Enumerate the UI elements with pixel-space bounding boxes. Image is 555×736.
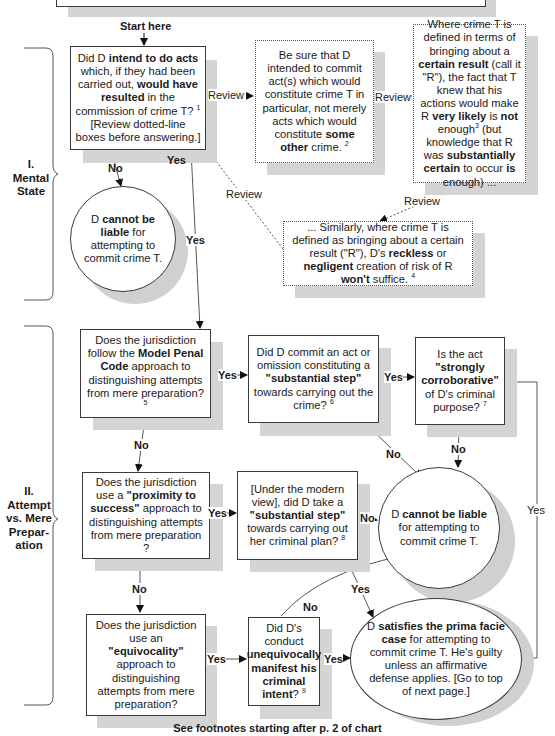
node-text: Does the jurisdiction use an "equivocali…: [91, 619, 201, 711]
node-text: Does the jurisdiction follow the Model P…: [85, 334, 206, 413]
node-equivocality: Does the jurisdiction use an "equivocali…: [86, 614, 206, 716]
section-label-line: ation: [4, 539, 54, 553]
edge-label-no: No: [303, 601, 318, 613]
node-cannot-be-liable-1: D cannot be liable for attempting to com…: [70, 186, 176, 292]
section-label-line: Mental: [10, 172, 52, 186]
node-text: Where crime T is defined in terms of bri…: [418, 18, 521, 188]
edge-label-no: No: [360, 512, 375, 524]
edge-label-yes: Yes: [208, 507, 227, 519]
node-text: Is the act "strongly corroborative" of D…: [420, 348, 500, 413]
edge-label-no: No: [386, 448, 401, 460]
node-intend-to-do-acts: Did D intend to do acts which, if they h…: [70, 46, 206, 150]
edge-label-no: No: [132, 583, 147, 595]
node-cannot-be-liable-2: D cannot be liable for attempting to com…: [378, 467, 500, 589]
edge-label-no: No: [108, 162, 123, 174]
node-text: D cannot be liable for attempting to com…: [385, 508, 493, 547]
edge-label-yes: Yes: [324, 653, 343, 665]
node-certain-result: Where crime T is defined in terms of bri…: [413, 24, 526, 183]
edge-label-no: No: [451, 443, 466, 455]
section-label-mental-state: I. Mental State: [10, 158, 52, 199]
node-text: [Under the modern view], did D take a "s…: [242, 483, 353, 548]
node-proximity-to-success: Does the jurisdiction use a "proximity t…: [82, 472, 210, 559]
section-label-attempt-vs-preparation: II. Attempt vs. Mere Prepar- ation: [4, 485, 54, 553]
section-label-line: Prepar-: [4, 526, 54, 540]
edge-label-review: Review: [375, 91, 411, 103]
edge-label-yes: Yes: [351, 583, 370, 595]
node-text: Did D commit an act or omission constitu…: [253, 346, 374, 411]
edge-label-review: Review: [404, 195, 440, 207]
node-model-penal-code: Does the jurisdiction follow the Model P…: [80, 329, 211, 418]
node-text: D cannot be liable for attempting to com…: [77, 213, 169, 265]
node-text: Does the jurisdiction use a "proximity t…: [87, 476, 205, 555]
footnotes-note: See footnotes starting after p. 2 of cha…: [0, 722, 555, 734]
node-prima-facie-case: D satisfies the prima facie case for att…: [350, 598, 522, 720]
node-text: D satisfies the prima facie case for att…: [365, 620, 507, 699]
node-text: ... Similarly, where crime T is defined …: [288, 221, 468, 286]
section-label-line: Attempt: [4, 499, 54, 513]
node-text: Did D intend to do acts which, if they h…: [75, 52, 201, 144]
node-reckless-negligent: ... Similarly, where crime T is defined …: [283, 221, 473, 286]
section-label-line: State: [10, 185, 52, 199]
node-text: Did D's conduct unequivocally manifest h…: [247, 622, 322, 701]
node-strongly-corroborative: Is the act "strongly corroborative" of D…: [415, 337, 505, 425]
edge-label-yes: Yes: [527, 504, 545, 516]
edge-label-yes: Yes: [218, 369, 237, 381]
section-label-line: II.: [4, 485, 54, 499]
node-substantial-step: Did D commit an act or omission constitu…: [248, 335, 379, 423]
section-label-line: I.: [10, 158, 52, 172]
edge-label-review: Review: [208, 89, 244, 101]
edge-label-no: No: [134, 439, 149, 451]
node-text: Be sure that D intended to commit act(s)…: [260, 49, 369, 154]
edge-label-yes: Yes: [384, 371, 403, 383]
node-modern-view-substantial-step: [Under the modern view], did D take a "s…: [237, 471, 358, 560]
node-unequivocal-intent: Did D's conduct unequivocally manifest h…: [248, 617, 320, 706]
edge-label-yes: Yes: [186, 234, 205, 246]
edge-label-yes: Yes: [167, 154, 186, 166]
node-be-sure-crime-t: Be sure that D intended to commit act(s)…: [255, 40, 374, 163]
edge-label-review: Review: [226, 188, 262, 200]
section-label-line: vs. Mere: [4, 512, 54, 526]
edge-label-yes: Yes: [207, 653, 226, 665]
